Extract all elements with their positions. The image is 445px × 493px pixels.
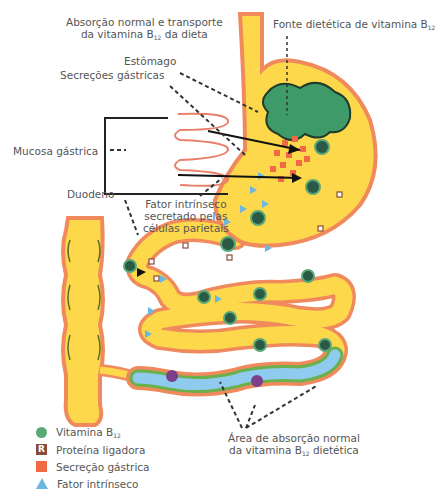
- blue-triangle-icon: [36, 478, 48, 489]
- title-line-1: Absorção normal e transporte: [66, 16, 223, 28]
- stomach-label: Estômago: [124, 55, 176, 67]
- r-square-icon: R: [36, 444, 47, 455]
- green-circle-icon: [36, 427, 47, 438]
- orange-square-icon: [36, 461, 47, 472]
- legend-item-intrinsic-factor: Fator intrínseco: [36, 475, 150, 492]
- legend: Vitamina B12 R Proteína ligadora Secreçã…: [36, 424, 150, 492]
- legend-item-binding-protein: R Proteína ligadora: [36, 441, 150, 458]
- gastric-secretions-label: Secreções gástricas: [60, 69, 165, 81]
- legend-item-gastric-secretion: Secreção gástrica: [36, 458, 150, 475]
- absorption-area-label: Área de absorção normal da vitamina B12 …: [228, 432, 360, 460]
- title-line-2: da vitamina B12 da dieta: [66, 28, 223, 44]
- legend-item-vitamin-b12: Vitamina B12: [36, 424, 150, 441]
- intrinsic-factor-label: Fator intrínseco secretado pelas células…: [143, 198, 229, 234]
- dietary-source-label: Fonte dietética de vitamina B12: [273, 18, 435, 34]
- large-intestine: [63, 218, 138, 425]
- small-intestine: [138, 230, 345, 385]
- duodenum-label: Duodeno: [67, 188, 114, 200]
- normal-absorption-title: Absorção normal e transporte da vitamina…: [66, 16, 223, 44]
- gastric-mucosa-label: Mucosa gástrica: [13, 145, 98, 157]
